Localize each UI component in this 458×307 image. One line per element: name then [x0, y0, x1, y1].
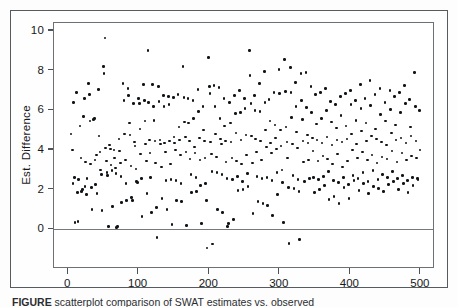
scatter-point	[192, 99, 195, 102]
scatter-point	[265, 146, 268, 149]
scatter-point	[313, 191, 316, 194]
scatter-point	[107, 225, 110, 228]
scatter-point	[162, 94, 165, 97]
scatter-point	[386, 176, 389, 179]
scatter-point	[387, 183, 390, 186]
scatter-point	[168, 103, 171, 106]
scatter-point	[243, 97, 246, 100]
scatter-point	[103, 72, 106, 75]
scatter-point	[94, 159, 97, 162]
scatter-point	[188, 140, 191, 143]
caption-label: FIGURE	[12, 296, 52, 307]
scatter-point	[199, 159, 202, 162]
scatter-point	[151, 83, 154, 86]
scatter-point	[334, 103, 337, 106]
scatter-point	[298, 238, 301, 241]
scatter-point	[110, 164, 113, 167]
scatter-point	[409, 126, 412, 129]
scatter-point	[394, 124, 397, 127]
y-axis-tick-label: 6	[37, 103, 44, 115]
scatter-point	[353, 179, 356, 182]
scatter-point	[173, 136, 176, 139]
scatter-point	[109, 148, 112, 151]
scatter-point	[369, 104, 372, 107]
scatter-point	[172, 96, 175, 99]
scatter-point	[374, 128, 377, 131]
scatter-point	[264, 129, 267, 132]
scatter-point	[233, 94, 236, 97]
scatter-point	[232, 218, 235, 221]
scatter-point	[180, 182, 183, 185]
scatter-point	[396, 161, 399, 164]
scatter-point	[161, 197, 164, 200]
scatter-point	[159, 143, 162, 146]
scatter-point	[145, 160, 148, 163]
scatter-point	[250, 135, 253, 138]
y-axis-tick-label: 2	[37, 183, 44, 195]
scatter-point	[229, 122, 232, 125]
scatter-point	[208, 85, 211, 88]
scatter-point	[310, 111, 313, 114]
scatter-point	[118, 138, 121, 141]
scatter-point	[154, 140, 157, 143]
scatter-point	[360, 130, 363, 133]
scatter-point	[411, 176, 414, 179]
scatter-point	[204, 182, 207, 185]
scatter-point	[326, 158, 329, 161]
scatter-point	[209, 92, 212, 95]
scatter-point	[412, 184, 415, 187]
scatter-point	[331, 163, 334, 166]
scatter-point	[123, 99, 126, 102]
scatter-point	[199, 184, 202, 187]
scatter-point	[401, 152, 404, 155]
scatter-point	[344, 92, 347, 95]
scatter-point	[159, 139, 162, 142]
scatter-point	[273, 91, 276, 94]
scatter-point	[122, 82, 125, 85]
scatter-point	[215, 156, 218, 159]
scatter-point	[294, 81, 297, 84]
scatter-point	[295, 131, 298, 134]
scatter-point	[350, 133, 353, 136]
scatter-point	[260, 159, 263, 162]
scatter-point	[147, 101, 150, 104]
scatter-point	[276, 193, 279, 196]
scatter-point	[86, 177, 89, 180]
scatter-point	[271, 179, 274, 182]
scatter-point	[369, 79, 372, 82]
scatter-point	[287, 186, 290, 189]
scatter-point	[99, 151, 102, 154]
scatter-point	[127, 94, 130, 97]
scatter-point	[311, 137, 314, 140]
scatter-point	[198, 137, 201, 140]
scatter-point	[398, 91, 401, 94]
scatter-point	[79, 125, 82, 128]
scatter-point	[119, 162, 122, 165]
scatter-point	[279, 129, 282, 132]
scatter-point	[156, 236, 159, 239]
scatter-point	[386, 158, 389, 161]
scatter-point	[390, 132, 393, 135]
scatter-point	[166, 208, 169, 211]
scatter-point	[329, 100, 332, 103]
scatter-point	[405, 142, 408, 145]
scatter-point	[286, 141, 289, 144]
y-axis-tick-label: 10	[31, 24, 44, 36]
y-axis-tick-label: 8	[37, 64, 44, 76]
scatter-point	[315, 123, 318, 126]
scatter-point	[142, 83, 145, 86]
scatter-point	[158, 100, 161, 103]
scatter-point	[307, 142, 310, 145]
scatter-point	[244, 107, 247, 110]
scatter-point	[127, 87, 130, 90]
scatter-point	[108, 144, 111, 147]
x-axis-tick	[349, 268, 350, 274]
scatter-point	[285, 126, 288, 129]
scatter-point	[194, 152, 197, 155]
scatter-point	[97, 88, 100, 91]
scatter-point	[347, 183, 350, 186]
scatter-point	[155, 206, 158, 209]
scatter-point	[343, 186, 346, 189]
scatter-point	[83, 97, 86, 100]
scatter-point	[346, 160, 349, 163]
